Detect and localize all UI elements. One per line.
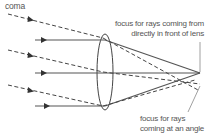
dashed-ray-arrows: [28, 16, 35, 93]
coma-label: coma: [5, 1, 25, 11]
focus-front-line1: focus for rays coming from: [115, 19, 204, 29]
focus-angle-label: focus for rays coming at an angle: [140, 114, 204, 134]
focus-front-line2: directly in front of lens: [115, 29, 204, 39]
leader-focus-angle: [188, 86, 200, 112]
focus-angle-line2: coming at an angle: [140, 124, 204, 134]
focus-front-label: focus for rays coming from directly in f…: [115, 19, 204, 39]
focus-angle-line1: focus for rays: [140, 114, 204, 124]
